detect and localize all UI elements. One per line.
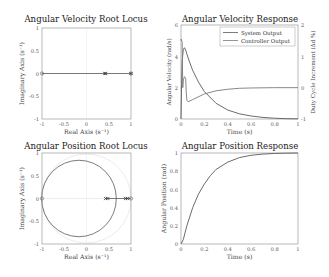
legend: System Output Controller Output — [220, 27, 295, 46]
svg-text:-0.5: -0.5 — [59, 121, 69, 127]
y-ticks: 1 0.5 0 -0.5 -1 — [29, 25, 39, 122]
chart-title: Angular Position Response — [181, 141, 299, 151]
y-axis-label-right: Duty Cycle Increment (Δd %) — [310, 31, 317, 114]
panel-position-root-locus: Angular Position Root Locus 1 0.5 0 -0.5… — [18, 141, 148, 260]
svg-text:2: 2 — [175, 85, 178, 91]
svg-text:0.6: 0.6 — [247, 121, 255, 127]
svg-text:1: 1 — [129, 121, 132, 127]
svg-text:-1: -1 — [34, 116, 39, 122]
svg-text:2: 2 — [301, 22, 304, 28]
x-axis-label: Real Axis (s⁻¹) — [64, 253, 109, 260]
svg-text:0.8: 0.8 — [270, 121, 278, 127]
svg-text:1: 1 — [296, 246, 299, 252]
x-ticks: -1 -0.5 0 0.5 1 — [39, 121, 132, 127]
y-axis-label: Angular Position (rad) — [160, 164, 168, 234]
svg-text:0.2: 0.2 — [170, 223, 178, 229]
panel-position-response: Angular Position Response 1 0.8 0.6 0.4 … — [160, 141, 300, 260]
svg-text:0: 0 — [85, 121, 88, 127]
svg-text:4: 4 — [175, 54, 179, 60]
panel-velocity-root-locus: Angular Velocity Root Locus 1 0.5 0 -0.5… — [18, 14, 148, 135]
response-curve — [181, 153, 298, 244]
svg-text:0.4: 0.4 — [170, 205, 179, 211]
svg-text:0.5: 0.5 — [31, 173, 39, 179]
svg-text:0.8: 0.8 — [170, 168, 178, 174]
svg-text:0.6: 0.6 — [170, 187, 178, 193]
svg-text:-1: -1 — [301, 116, 306, 122]
svg-text:0: 0 — [179, 246, 182, 252]
legend-system-output: System Output — [241, 30, 283, 37]
svg-text:0.8: 0.8 — [270, 246, 278, 252]
svg-text:-0.5: -0.5 — [59, 246, 69, 252]
svg-text:1: 1 — [129, 246, 132, 252]
svg-text:0: 0 — [301, 85, 304, 91]
figure: Angular Velocity Root Locus 1 0.5 0 -0.5… — [0, 0, 329, 277]
svg-text:0.5: 0.5 — [31, 48, 39, 54]
svg-text:6: 6 — [175, 22, 178, 28]
y-ticks: 1 0.5 0 -0.5 -1 — [29, 150, 39, 247]
svg-text:0: 0 — [175, 241, 178, 247]
svg-text:0.5: 0.5 — [105, 246, 113, 252]
svg-text:0.4: 0.4 — [224, 121, 233, 127]
svg-text:1: 1 — [296, 121, 299, 127]
chart-title: Angular Velocity Response — [181, 14, 298, 24]
legend-controller-output: Controller Output — [241, 38, 291, 45]
svg-text:1: 1 — [36, 25, 39, 31]
response-curves — [181, 39, 298, 119]
x-ticks: -1 -0.5 0 0.5 1 — [39, 246, 132, 252]
y-axis-label: Imaginary Axis (s⁻¹) — [18, 42, 26, 105]
plot-area — [181, 153, 298, 244]
svg-text:0: 0 — [175, 116, 178, 122]
svg-text:1: 1 — [36, 150, 39, 156]
svg-text:-1: -1 — [39, 246, 44, 252]
svg-text:-0.5: -0.5 — [29, 218, 39, 224]
svg-text:0.4: 0.4 — [224, 246, 233, 252]
svg-text:0: 0 — [179, 121, 182, 127]
chart-title: Angular Position Root Locus — [23, 141, 148, 151]
chart-title: Angular Velocity Root Locus — [23, 14, 147, 24]
y-axis-label: Imaginary Axis (s⁻¹) — [18, 167, 26, 230]
x-axis-label: Time (s) — [227, 128, 253, 135]
x-ticks: 0 0.2 0.4 0.6 0.8 1 — [179, 246, 299, 252]
svg-text:0.6: 0.6 — [247, 246, 255, 252]
y-ticks-right: 2 1 0 -1 — [301, 22, 306, 122]
svg-text:0: 0 — [36, 71, 39, 77]
svg-text:-1: -1 — [39, 121, 44, 127]
svg-text:0: 0 — [85, 246, 88, 252]
x-axis-label: Real Axis (s⁻¹) — [64, 128, 109, 135]
y-ticks: 1 0.8 0.6 0.4 0.2 0 — [170, 150, 179, 247]
svg-text:-0.5: -0.5 — [29, 93, 39, 99]
svg-text:0.2: 0.2 — [200, 121, 208, 127]
y-ticks-left: 6 4 2 0 — [175, 22, 179, 122]
locus-data — [40, 153, 132, 244]
y-axis-label-left: Angular Velocity (rad/s) — [166, 38, 173, 106]
svg-text:-1: -1 — [34, 241, 39, 247]
x-axis-label: Time (s) — [227, 253, 253, 260]
svg-text:0.2: 0.2 — [200, 246, 208, 252]
svg-text:0: 0 — [36, 196, 39, 202]
x-ticks: 0 0.2 0.4 0.6 0.8 1 — [179, 121, 299, 127]
panel-velocity-response: Angular Velocity Response System Output … — [166, 14, 317, 135]
svg-text:1: 1 — [175, 150, 178, 156]
svg-text:1: 1 — [301, 54, 304, 60]
svg-text:0.5: 0.5 — [105, 121, 113, 127]
